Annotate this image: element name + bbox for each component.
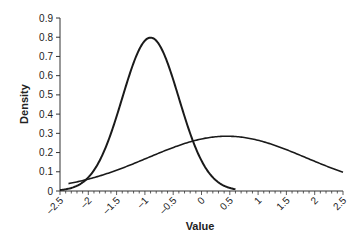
narrow-density-curve — [60, 38, 235, 190]
x-tick-label: –1 — [135, 194, 151, 210]
y-axis: 00.10.20.30.40.50.60.70.80.9 — [39, 13, 60, 197]
y-tick-label: 0.5 — [39, 89, 53, 100]
y-tick-label: 0.2 — [39, 147, 53, 158]
x-tick-label: 2 — [308, 194, 320, 206]
y-tick-label: 0.4 — [39, 109, 53, 120]
density-chart: 00.10.20.30.40.50.60.70.80.9 –2.5–2–1.5–… — [0, 0, 362, 246]
y-tick-label: 0.6 — [39, 70, 53, 81]
x-axis-label: Value — [186, 220, 215, 232]
y-tick-label: 0.1 — [39, 166, 53, 177]
x-tick-label: 0.5 — [218, 194, 236, 212]
broad-density-curve — [68, 136, 343, 183]
x-tick-label: 1 — [252, 194, 264, 206]
x-tick-label: –1.5 — [100, 194, 122, 216]
density-curves — [60, 38, 343, 190]
x-tick-label: –0.5 — [157, 194, 179, 216]
x-tick-label: –2 — [78, 194, 94, 210]
chart-svg: 00.10.20.30.40.50.60.70.80.9 –2.5–2–1.5–… — [0, 0, 362, 246]
y-tick-label: 0.9 — [39, 13, 53, 24]
x-tick-label: –2.5 — [44, 194, 66, 216]
y-tick-label: 0.7 — [39, 51, 53, 62]
x-axis: –2.5–2–1.5–1–0.500.511.522.5 — [44, 191, 349, 216]
y-axis-label: Density — [18, 83, 30, 124]
x-tick-label: 1.5 — [274, 194, 292, 212]
x-tick-label: 2.5 — [331, 194, 349, 212]
y-tick-label: 0.8 — [39, 32, 53, 43]
y-tick-label: 0 — [47, 186, 53, 197]
y-tick-label: 0.3 — [39, 128, 53, 139]
x-tick-label: 0 — [195, 194, 207, 206]
